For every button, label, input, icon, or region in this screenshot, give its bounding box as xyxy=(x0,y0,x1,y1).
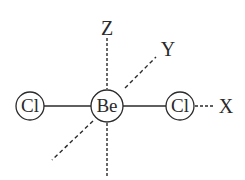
atom-label: Be xyxy=(96,95,117,116)
y-axis-upper-dashed xyxy=(125,57,156,88)
axis-label-y: Y xyxy=(161,38,175,60)
axis-label-x: X xyxy=(219,95,234,117)
y-axis-lower-dashed xyxy=(52,121,93,160)
axis-label-z: Z xyxy=(101,17,113,39)
atom-be-center: Be xyxy=(91,90,123,122)
atom-label: Cl xyxy=(21,95,39,116)
atom-cl-right: Cl xyxy=(166,92,194,120)
atom-cl-left: Cl xyxy=(16,92,44,120)
atom-label: Cl xyxy=(171,95,189,116)
becl2-diagram: Cl Be Cl Z Y X xyxy=(0,0,245,180)
